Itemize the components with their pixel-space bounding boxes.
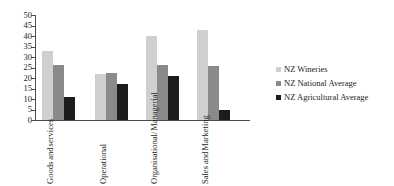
plot-area — [36, 15, 250, 120]
legend-swatch-icon — [276, 81, 281, 86]
y-tick-mark — [31, 36, 35, 37]
x-category-label-line: Managerial — [150, 92, 160, 131]
x-category-label-line: Operational — [99, 144, 109, 184]
legend-item-label: NZ Wineries — [284, 65, 328, 74]
x-category-label-line: services — [46, 119, 56, 146]
legend-item-label: NZ National Average — [284, 79, 357, 88]
y-tick-mark — [31, 78, 35, 79]
bar-chart: 50454035302520151050 Goods andservicesOp… — [0, 0, 394, 186]
bar-group — [95, 15, 128, 120]
y-tick-mark — [31, 68, 35, 69]
bar — [197, 30, 208, 120]
y-tick-mark — [31, 99, 35, 100]
bar — [208, 66, 219, 120]
legend-item: NZ Wineries — [276, 62, 394, 76]
bar — [95, 74, 106, 120]
y-axis-labels: 50454035302520151050 — [0, 0, 34, 186]
bar-group — [197, 15, 230, 120]
chart-legend: NZ Wineries NZ National Average NZ Agric… — [276, 62, 394, 104]
y-tick-mark — [31, 15, 35, 16]
legend-item: NZ Agricultural Average — [276, 90, 394, 104]
x-axis-labels: Goods andservicesOperationalOrganisation… — [36, 122, 250, 186]
y-tick-mark — [31, 26, 35, 27]
legend-swatch-icon — [276, 95, 281, 100]
x-category-label-line: Sales and — [201, 152, 211, 184]
x-category-label-line: Goods and — [46, 147, 56, 184]
bar — [168, 76, 179, 120]
bar — [106, 73, 117, 120]
bar — [219, 110, 230, 121]
legend-swatch-icon — [276, 67, 281, 72]
bar — [117, 84, 128, 120]
x-category-label-line: Organisational/ — [150, 132, 160, 184]
bar — [64, 97, 75, 120]
bar — [53, 65, 64, 120]
y-tick-mark — [31, 110, 35, 111]
legend-item: NZ National Average — [276, 76, 394, 90]
y-tick-mark — [31, 57, 35, 58]
x-axis-line — [35, 120, 250, 121]
bar — [42, 51, 53, 120]
y-tick-mark — [31, 89, 35, 90]
y-tick-mark — [31, 47, 35, 48]
x-category-label-line: Marketing — [201, 115, 211, 150]
y-tick-mark — [31, 120, 35, 121]
legend-item-label: NZ Agricultural Average — [284, 93, 368, 102]
bar-group — [42, 15, 75, 120]
